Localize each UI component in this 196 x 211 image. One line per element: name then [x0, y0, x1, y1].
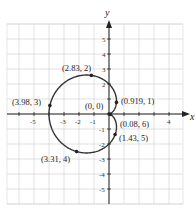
point-label: (0.08, 6) — [120, 119, 149, 129]
x-tick-label: -1 — [90, 118, 96, 126]
point-label: (0, 0) — [85, 101, 104, 111]
point-label: (0.919, 1) — [121, 96, 154, 106]
y-tick-label: -3 — [99, 156, 105, 164]
polar-plot: x y -5 -3 -2 -1 4 5 4 3 2 -1 -2 -3 -4 -5… — [0, 0, 196, 211]
data-points — [48, 74, 118, 154]
x-tick-label: -3 — [60, 118, 66, 126]
y-tick-label: -5 — [99, 186, 105, 194]
data-point — [48, 104, 52, 108]
y-tick-label: -1 — [99, 126, 105, 134]
data-point — [115, 101, 119, 105]
x-tick-label: 4 — [167, 118, 171, 126]
y-axis-label: y — [104, 7, 110, 18]
point-label: (3.31, 4) — [41, 154, 70, 164]
data-point — [75, 150, 79, 154]
y-tick-label: 2 — [102, 81, 106, 89]
y-tick-label: 5 — [102, 36, 106, 44]
x-axis-label: x — [189, 111, 195, 122]
point-label: (1.43, 5) — [119, 133, 148, 143]
point-label: (3.98, 3) — [12, 97, 41, 107]
data-point — [90, 74, 94, 78]
data-point — [113, 133, 117, 137]
x-axis-arrow-icon — [182, 111, 190, 117]
x-tick-label: -5 — [30, 118, 36, 126]
data-point — [108, 113, 112, 117]
x-tick-label: -2 — [75, 118, 81, 126]
y-tick-label: 4 — [102, 51, 106, 59]
y-tick-label: -4 — [99, 171, 105, 179]
point-label: (2.83, 2) — [62, 63, 91, 73]
y-tick-label: 3 — [102, 66, 106, 74]
